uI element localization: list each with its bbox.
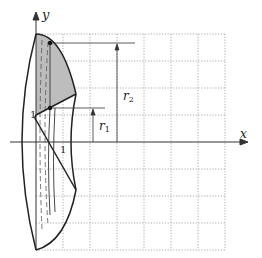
x-axis-label: x [240,128,247,140]
revolution-diagram [0,0,262,258]
r1-label: r1 [99,120,110,134]
r2-label: r2 [123,90,134,104]
point-top [48,41,52,45]
r2-subscript: 2 [129,95,134,104]
y-tick-one: 1 [30,110,36,120]
x-tick-one: 1 [60,145,66,155]
point-bottom [48,106,52,110]
r1-subscript: 1 [105,125,110,134]
y-axis-label: y [42,8,49,21]
